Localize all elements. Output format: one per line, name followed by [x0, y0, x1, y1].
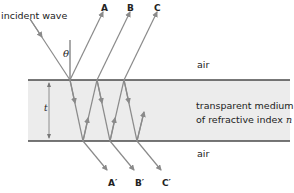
thin-film-diagram [0, 0, 294, 193]
ray-b-label: B [127, 3, 134, 13]
ray-c-prime [137, 141, 161, 170]
ray-a-label: A [101, 3, 108, 13]
medium-label-line2: of refractive index n [196, 114, 292, 125]
theta-label: θ [63, 48, 69, 59]
ray-a-prime-label: A′ [108, 178, 117, 188]
ray-b-prime-label: B′ [135, 178, 144, 188]
ray-c-prime-label: C′ [162, 178, 171, 188]
ray-a [70, 12, 103, 80]
ray-c-label: C [154, 3, 161, 13]
thickness-label: t [44, 103, 48, 113]
ray-b-prime [110, 141, 134, 170]
medium-label-line1: transparent medium [196, 100, 294, 111]
medium-label-prefix: of refractive index [196, 114, 286, 125]
ray-c [124, 12, 157, 80]
ray-a-prime [83, 141, 107, 170]
incident-wave-label: incident wave [1, 10, 67, 21]
ray-b [97, 12, 130, 80]
air-top-label: air [197, 59, 209, 70]
refractive-index-var: n [286, 114, 292, 125]
air-bottom-label: air [197, 148, 209, 159]
